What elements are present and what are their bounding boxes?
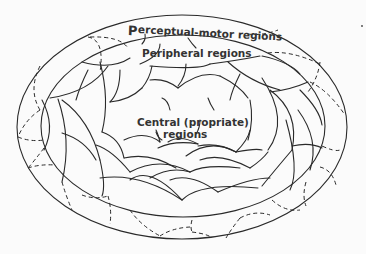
central-label-line2: regions bbox=[163, 128, 207, 140]
central-label-line1: Central (propriate) bbox=[137, 116, 249, 128]
diagram-canvas: P erceptual-motor regions Peripheral reg… bbox=[0, 0, 366, 254]
peripheral-label: Peripheral regions bbox=[142, 47, 252, 59]
diagram-labels: P erceptual-motor regions Peripheral reg… bbox=[128, 23, 283, 140]
personality-regions-diagram: P erceptual-motor regions Peripheral reg… bbox=[0, 0, 366, 254]
speck-mark bbox=[361, 25, 363, 27]
perceptual-motor-label-initial: P bbox=[128, 23, 138, 38]
perceptual-motor-label: erceptual-motor regions bbox=[138, 23, 283, 43]
